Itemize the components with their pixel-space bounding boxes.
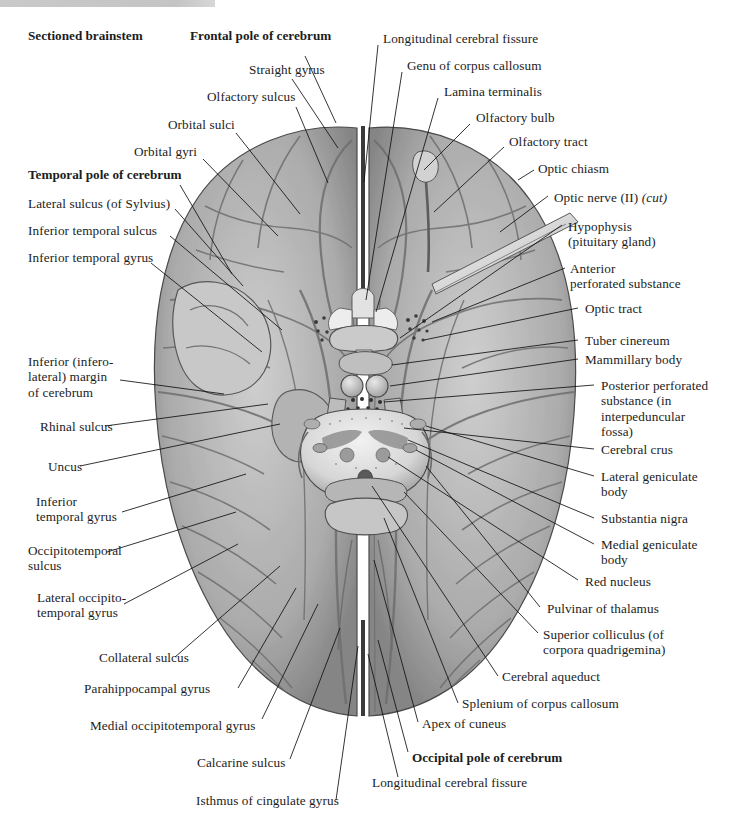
label-occipitotemporal-sulcus: Occipitotemporalsulcus	[28, 543, 122, 574]
label-longitudinal-cerebral-fissure-bottom: Longitudinal cerebral fissure	[372, 775, 527, 790]
lat-gen-line-1: Lateral geniculate	[601, 469, 698, 484]
label-isthmus-of-cingulate-gyrus: Isthmus of cingulate gyrus	[196, 793, 339, 808]
label-inferior-temporal-gyrus-upper: Inferior temporal gyrus	[28, 250, 153, 265]
label-lateral-sulcus: Lateral sulcus (of Sylvius)	[28, 196, 170, 211]
label-olfactory-bulb: Olfactory bulb	[476, 110, 555, 125]
lat-occtemp-line-1: Lateral occipito-	[37, 590, 126, 605]
label-uncus: Uncus	[48, 459, 82, 474]
lateral-geniculate-body-left	[304, 419, 320, 429]
red-nucleus-left	[340, 448, 354, 462]
label-optic-tract: Optic tract	[585, 301, 642, 316]
label-optic-chiasm: Optic chiasm	[538, 161, 609, 176]
label-straight-gyrus: Straight gyrus	[249, 62, 325, 77]
inf-temp-gyrus-line-2: temporal gyrus	[36, 509, 117, 524]
label-occipital-pole: Occipital pole of cerebrum	[412, 750, 562, 765]
optic-nerve-cut-qualifier: (cut)	[642, 190, 667, 205]
occipitotemporal-line-1: Occipitotemporal	[28, 543, 122, 558]
label-apex-of-cuneus: Apex of cuneus	[422, 716, 506, 731]
med-gen-line-1: Medial geniculate	[601, 537, 698, 552]
medial-geniculate-body-left	[313, 444, 327, 453]
inf-temp-gyrus-line-1: Inferior	[36, 494, 77, 509]
hypophysis-line-2: (pituitary gland)	[568, 234, 656, 249]
figure-canvas: Sectioned brainstem Frontal pole of cere…	[0, 0, 735, 832]
label-tuber-cinereum: Tuber cinereum	[585, 333, 670, 348]
label-olfactory-sulcus: Olfactory sulcus	[207, 89, 295, 104]
sup-colliculus-line-1: Superior colliculus (of	[543, 627, 664, 642]
label-collateral-sulcus: Collateral sulcus	[99, 650, 189, 665]
label-olfactory-tract: Olfactory tract	[509, 134, 588, 149]
posterior-perf-line-1: Posterior perforated	[601, 378, 708, 393]
label-hypophysis: Hypophysis(pituitary gland)	[568, 219, 656, 250]
med-gen-line-2: body	[601, 552, 628, 567]
posterior-perf-line-4: fossa)	[601, 424, 633, 439]
anterior-perf-line-1: Anterior	[570, 261, 615, 276]
infero-margin-line-3: of cerebrum	[28, 385, 93, 400]
label-frontal-pole: Frontal pole of cerebrum	[190, 28, 331, 43]
label-orbital-gyri: Orbital gyri	[134, 144, 197, 159]
label-anterior-perforated-substance: Anteriorperforated substance	[570, 261, 681, 292]
label-lateral-occipitotemporal-gyrus: Lateral occipito-temporal gyrus	[37, 590, 126, 621]
label-substantia-nigra: Substantia nigra	[601, 511, 688, 526]
label-sectioned-brainstem: Sectioned brainstem	[28, 28, 143, 43]
hypophysis-line-1: Hypophysis	[568, 219, 632, 234]
optic-nerve-text: Optic nerve (II)	[554, 190, 642, 205]
anterior-perf-line-2: perforated substance	[570, 276, 681, 291]
label-inferior-temporal-gyrus: Inferiortemporal gyrus	[36, 494, 117, 525]
sup-colliculus-line-2: corpora quadrigemina)	[543, 642, 666, 657]
lat-occtemp-line-2: temporal gyrus	[37, 605, 118, 620]
label-cerebral-crus: Cerebral crus	[601, 442, 673, 457]
lat-gen-line-2: body	[601, 484, 628, 499]
label-medial-geniculate-body: Medial geniculatebody	[601, 537, 698, 568]
red-nucleus-right	[376, 448, 390, 462]
label-orbital-sulci: Orbital sulci	[168, 117, 235, 132]
label-optic-nerve-cut: Optic nerve (II) (cut)	[554, 190, 667, 205]
optic-chiasm-shape	[330, 326, 398, 352]
label-infero-lateral-margin: Inferior (infero-lateral) marginof cereb…	[28, 354, 114, 400]
infero-margin-line-2: lateral) margin	[28, 369, 107, 384]
label-mammillary-body: Mammillary body	[585, 352, 682, 367]
posterior-perf-line-2: substance (in	[601, 393, 672, 408]
label-calcarine-sulcus: Calcarine sulcus	[197, 755, 285, 770]
infero-margin-line-1: Inferior (infero-	[28, 354, 114, 369]
occipitotemporal-line-2: sulcus	[28, 558, 62, 573]
label-rhinal-sulcus: Rhinal sulcus	[40, 419, 113, 434]
lateral-geniculate-body-right	[410, 419, 426, 429]
label-temporal-pole: Temporal pole of cerebrum	[28, 167, 181, 182]
label-superior-colliculus: Superior colliculus (ofcorpora quadrigem…	[543, 627, 666, 658]
label-inferior-temporal-sulcus: Inferior temporal sulcus	[28, 223, 157, 238]
posterior-perf-line-3: interpeduncular	[601, 409, 685, 424]
label-genu-of-corpus-callosum: Genu of corpus callosum	[407, 58, 542, 73]
label-cerebral-aqueduct: Cerebral aqueduct	[502, 669, 600, 684]
splenium-shape	[325, 498, 407, 535]
mammillary-body-right	[366, 375, 388, 397]
label-pulvinar-of-thalamus: Pulvinar of thalamus	[547, 601, 659, 616]
mammillary-body-left	[341, 375, 363, 397]
label-parahippocampal-gyrus: Parahippocampal gyrus	[84, 681, 210, 696]
label-lamina-terminalis: Lamina terminalis	[444, 84, 542, 99]
label-longitudinal-cerebral-fissure-top: Longitudinal cerebral fissure	[383, 31, 538, 46]
label-posterior-perforated-substance: Posterior perforatedsubstance (ininterpe…	[601, 378, 708, 440]
label-red-nucleus: Red nucleus	[585, 574, 651, 589]
medial-geniculate-body-right	[403, 444, 417, 453]
label-lateral-geniculate-body: Lateral geniculatebody	[601, 469, 698, 500]
label-splenium: Splenium of corpus callosum	[462, 696, 619, 711]
label-medial-occipitotemporal-gyrus: Medial occipitotemporal gyrus	[90, 718, 256, 733]
